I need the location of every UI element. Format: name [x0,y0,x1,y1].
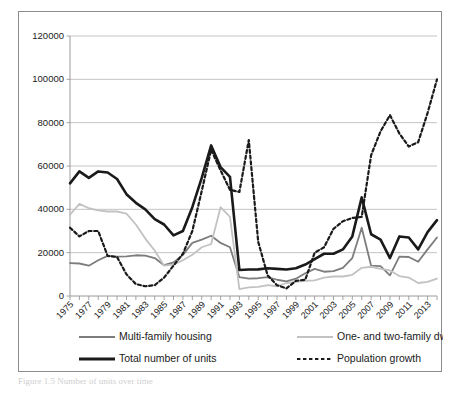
series-line-2 [70,145,437,270]
x-axis-tick-label: 1977 [73,299,94,320]
y-axis-tick-label: 60000 [38,160,64,171]
y-axis-tick-label: 20000 [38,247,64,258]
legend-label: One- and two-family dwellings [337,330,443,342]
x-axis-tick-label: 1999 [280,299,301,320]
x-axis-tick-label: 1993 [224,299,245,320]
y-axis-tick-label: 100000 [32,73,64,84]
chart-canvas: 0200004000060000800001000001200001975197… [19,12,443,373]
legend-item[interactable]: One- and two-family dwellings [297,330,443,342]
legend-item[interactable]: Total number of units [79,352,216,364]
x-axis-tick-label: 1981 [111,299,132,320]
x-axis-tick-label: 1987 [167,299,188,320]
y-axis-tick-label: 40000 [38,203,64,214]
line-chart: 0200004000060000800001000001200001975197… [19,12,443,373]
x-axis-tick-label: 2003 [318,299,339,320]
x-axis-tick-label: 2001 [299,299,320,320]
x-axis-tick-label: 2013 [412,299,433,320]
y-axis-tick-label: 0 [59,290,64,301]
series-line-1 [70,204,437,289]
legend-item[interactable]: Multi-family housing [79,330,212,342]
x-axis-tick-label: 1995 [242,299,263,320]
y-axis-tick-label: 120000 [32,30,64,41]
x-axis-tick-label: 2009 [374,299,395,320]
x-axis-tick-label: 1989 [186,299,207,320]
x-axis-tick-label: 1997 [261,299,282,320]
legend-label: Total number of units [119,352,216,364]
legend-item[interactable]: Population growth [297,352,421,364]
x-axis-tick-label: 2011 [393,299,414,320]
y-axis-tick-label: 80000 [38,117,64,128]
x-axis-tick-label: 1983 [129,299,150,320]
x-axis-tick-label: 1975 [54,299,75,320]
x-axis-tick-label: 1979 [92,299,113,320]
x-axis-tick-label: 1991 [205,299,226,320]
x-axis-tick-label: 1985 [148,299,169,320]
figure-caption: Figure 1.5 Number of units over time [18,376,448,386]
legend-label: Population growth [337,352,421,364]
x-axis-tick-label: 2007 [355,299,376,320]
x-axis-tick-label: 2005 [336,299,357,320]
legend-label: Multi-family housing [119,330,212,342]
figure-frame: 0200004000060000800001000001200001975197… [18,11,442,372]
